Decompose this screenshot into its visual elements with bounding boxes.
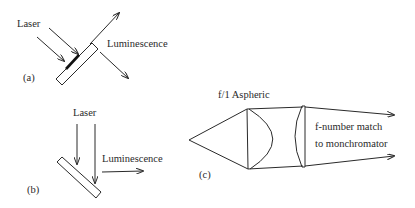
panel-c-output-label-line2: to monchromator bbox=[315, 138, 388, 149]
panel-b-tag: (b) bbox=[27, 184, 40, 196]
panel-b-sample-slab bbox=[57, 157, 101, 198]
panel-c-aspheric-lens-curve bbox=[249, 109, 273, 169]
panel-b: Laser Luminescence (b) bbox=[27, 107, 163, 198]
panel-a-laser-label: Laser bbox=[17, 18, 41, 29]
panel-a: Laser Luminescence (a) bbox=[17, 13, 168, 85]
panel-c-lens-label: f/1 Aspheric bbox=[218, 89, 270, 100]
panel-b-laser-label: Laser bbox=[73, 107, 97, 118]
panel-a-luminescence-arrow bbox=[100, 52, 128, 78]
panel-c-source-cone bbox=[189, 109, 248, 169]
panel-c: f/1 Aspheric f-number match to monchroma… bbox=[189, 89, 394, 181]
panel-c-output-arrow-upper bbox=[305, 107, 394, 115]
panel-a-laser-arrow-1 bbox=[37, 37, 64, 61]
panel-c-matching-lens-left bbox=[295, 106, 302, 167]
panel-c-upper-ray bbox=[247, 107, 303, 109]
panel-a-laser-arrow-2 bbox=[49, 28, 78, 54]
luminescence-geometry-diagram: Laser Luminescence (a) Laser Luminescenc… bbox=[0, 0, 415, 208]
panel-c-output-arrow-lower bbox=[305, 156, 394, 166]
panel-c-lower-ray bbox=[248, 166, 303, 169]
panel-b-luminescence-label: Luminescence bbox=[102, 153, 163, 164]
panel-a-luminescence-label: Luminescence bbox=[107, 38, 168, 49]
panel-b-luminescence-arrow bbox=[102, 171, 143, 172]
panel-c-aspheric-lens-flat bbox=[247, 109, 248, 169]
panel-a-sample-slab bbox=[56, 43, 98, 85]
panel-a-excited-surface bbox=[66, 55, 79, 69]
panel-c-output-label-line1: f-number match bbox=[315, 121, 383, 132]
panel-a-tag: (a) bbox=[23, 72, 35, 84]
panel-c-tag: (c) bbox=[199, 169, 211, 181]
